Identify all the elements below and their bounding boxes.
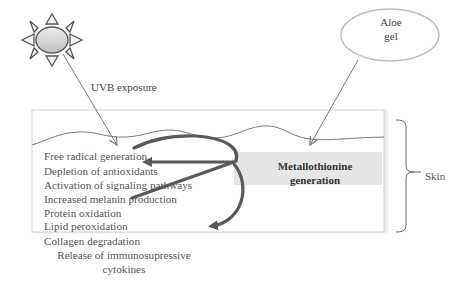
aloe-label-line1: Aloe: [374, 15, 408, 29]
effect-item: Lipid peroxidation: [44, 219, 128, 233]
effect-last-line2: cytokines: [44, 262, 204, 276]
effect-item: Depletion of antioxidants: [44, 164, 158, 178]
effect-item-last: Release of immunosupressive cytokines: [44, 248, 204, 276]
aloe-label-line2: gel: [374, 29, 408, 43]
metallothionine-label: Metallothionine generation: [237, 159, 393, 187]
metallothionine-line2: generation: [237, 173, 393, 187]
sun-icon: [22, 14, 82, 66]
effect-item: Protein oxidation: [44, 206, 121, 220]
effect-item: Collagen degradation: [44, 234, 140, 248]
skin-label: Skin: [425, 170, 445, 182]
uvb-exposure-label: UVB exposure: [91, 81, 157, 93]
aloe-gel-label: Aloe gel: [374, 15, 408, 43]
effect-item: Free radical generation: [44, 149, 147, 163]
effect-item: Activation of signaling pathways: [44, 178, 192, 192]
effect-last-line1: Release of immunosupressive: [44, 248, 204, 262]
effect-item: Increased melanin production: [44, 192, 177, 206]
skin-brace: [396, 120, 414, 232]
metallothionine-line1: Metallothionine: [237, 159, 393, 173]
diagram-canvas: UVB exposure Aloe gel Metallothionine ge…: [0, 0, 465, 288]
